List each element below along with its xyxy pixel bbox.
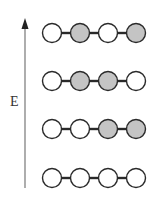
empty-site-circle [43, 169, 62, 188]
empty-site-circle [99, 24, 118, 43]
state-row [43, 169, 146, 188]
empty-site-circle [71, 169, 90, 188]
empty-site-circle [71, 120, 90, 139]
empty-site-circle [127, 169, 146, 188]
filled-site-circle [71, 72, 90, 91]
filled-site-circle [99, 120, 118, 139]
filled-site-circle [71, 24, 90, 43]
state-row [43, 24, 146, 43]
empty-site-circle [127, 72, 146, 91]
state-row [43, 72, 146, 91]
empty-site-circle [43, 72, 62, 91]
energy-diagram [0, 0, 154, 198]
filled-site-circle [127, 120, 146, 139]
state-row [43, 120, 146, 139]
empty-site-circle [43, 120, 62, 139]
empty-site-circle [99, 169, 118, 188]
arrow-up-icon [22, 18, 29, 29]
empty-site-circle [43, 24, 62, 43]
energy-axis-label: E [10, 94, 19, 110]
filled-site-circle [127, 24, 146, 43]
energy-axis [22, 18, 29, 188]
filled-site-circle [99, 72, 118, 91]
